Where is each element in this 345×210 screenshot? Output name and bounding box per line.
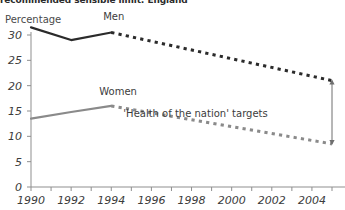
x-tick-label: 1994 [91,194,131,207]
series-label-men: Men [103,11,124,22]
y-tick-label: 25 [0,54,22,67]
y-tick-label: 0 [0,181,22,194]
x-tick-label: 2002 [252,194,292,207]
series-line-men-target [111,32,332,80]
y-tick-label: 5 [0,155,22,168]
targets-annotation: 'Health of the nation' targets [123,108,267,119]
x-tick-label: 2000 [212,194,252,207]
y-tick-label: 15 [0,105,22,118]
series-label-women: Women [99,86,137,97]
x-tick-label: 2004 [292,194,332,207]
x-tick-label: 1998 [172,194,212,207]
plot-area [0,0,345,210]
y-tick-label: 30 [0,29,22,42]
data-series [31,27,332,144]
target-range-arrow [329,80,334,145]
chart-container: recommended sensible limit: England Perc… [0,0,345,210]
y-tick-label: 20 [0,79,22,92]
y-tick-label: 10 [0,130,22,143]
x-tick-label: 1990 [11,194,51,207]
x-tick-label: 1996 [131,194,171,207]
x-tick-label: 1992 [51,194,91,207]
series-line-men [31,27,111,40]
series-line-women [31,106,111,119]
